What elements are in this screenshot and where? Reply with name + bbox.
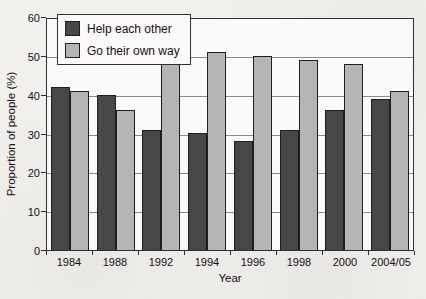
bar-group-1998 (276, 19, 322, 250)
bar-help-each-other-2004/05 (371, 99, 390, 250)
y-tick-mark-20 (41, 172, 46, 173)
bar-group-2000 (322, 19, 368, 250)
bar-group-2004/05 (367, 19, 413, 250)
bar-help-each-other-1984 (51, 87, 70, 250)
legend-item-go-their-own-way: Go their own way (65, 41, 180, 60)
x-tick-mark-7 (368, 251, 369, 255)
bar-help-each-other-1996 (234, 141, 253, 250)
x-axis-labels: 19841988199219941996199820002004/05 (46, 256, 414, 268)
bar-group-1996 (230, 19, 276, 250)
bar-help-each-other-1988 (97, 95, 116, 250)
bar-group-1994 (184, 19, 230, 250)
bar-help-each-other-1998 (280, 130, 299, 250)
x-tick-mark-1 (92, 251, 93, 255)
x-tick-label-2000: 2000 (322, 256, 368, 268)
bar-go-their-own-way-1984 (70, 91, 89, 250)
x-tick-label-1998: 1998 (276, 256, 322, 268)
x-tick-mark-5 (276, 251, 277, 255)
bar-go-their-own-way-1992 (161, 60, 180, 250)
bar-go-their-own-way-2004/05 (390, 91, 409, 250)
legend-item-help-each-other: Help each other (65, 19, 180, 38)
x-tick-label-2004/05: 2004/05 (368, 256, 414, 268)
y-tick-mark-50 (41, 56, 46, 57)
x-axis-title: Year (46, 272, 414, 284)
y-tick-label-0: 0 (12, 245, 40, 257)
legend-swatch-light (65, 43, 80, 58)
y-tick-label-20: 20 (12, 167, 40, 179)
x-tick-label-1996: 1996 (230, 256, 276, 268)
bar-help-each-other-1992 (142, 130, 161, 250)
x-tick-label-1984: 1984 (46, 256, 92, 268)
y-tick-mark-60 (41, 17, 46, 18)
bar-go-their-own-way-1994 (207, 52, 226, 250)
y-tick-label-50: 50 (12, 51, 40, 63)
x-tick-mark-4 (230, 251, 231, 255)
y-tick-label-30: 30 (12, 129, 40, 141)
bar-chart-figure: Proportion of people (%) 0102030405060 1… (0, 0, 426, 299)
y-tick-label-40: 40 (12, 90, 40, 102)
x-tick-mark-8 (414, 251, 415, 255)
bar-help-each-other-1994 (188, 133, 207, 250)
bar-go-their-own-way-1988 (116, 110, 135, 250)
bar-go-their-own-way-1996 (253, 56, 272, 250)
y-tick-label-60: 60 (12, 12, 40, 24)
x-tick-mark-2 (138, 251, 139, 255)
x-tick-label-1988: 1988 (92, 256, 138, 268)
legend: Help each other Go their own way (57, 14, 191, 65)
bar-go-their-own-way-2000 (344, 64, 363, 250)
x-tick-mark-6 (322, 251, 323, 255)
x-tick-mark-3 (184, 251, 185, 255)
legend-swatch-dark (65, 21, 80, 36)
y-tick-mark-10 (41, 211, 46, 212)
y-tick-mark-40 (41, 95, 46, 96)
y-tick-mark-30 (41, 134, 46, 135)
bar-go-their-own-way-1998 (299, 60, 318, 250)
y-tick-label-10: 10 (12, 206, 40, 218)
x-tick-label-1992: 1992 (138, 256, 184, 268)
legend-label: Help each other (87, 22, 172, 36)
x-tick-label-1994: 1994 (184, 256, 230, 268)
x-tick-mark-0 (46, 251, 47, 255)
legend-label: Go their own way (87, 44, 180, 58)
bar-help-each-other-2000 (325, 110, 344, 250)
